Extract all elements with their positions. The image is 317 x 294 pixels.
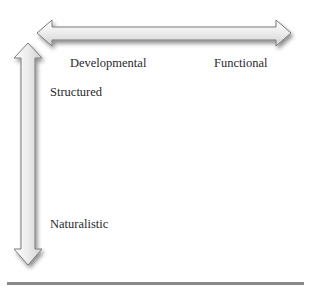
label-developmental: Developmental (70, 57, 146, 70)
label-naturalistic: Naturalistic (50, 218, 108, 231)
label-functional: Functional (214, 57, 267, 70)
bottom-divider-rule (7, 282, 304, 285)
horizontal-double-arrow-icon (37, 20, 291, 46)
diagram-canvas (0, 0, 317, 294)
vertical-double-arrow-icon (14, 43, 42, 265)
label-structured: Structured (50, 86, 102, 99)
